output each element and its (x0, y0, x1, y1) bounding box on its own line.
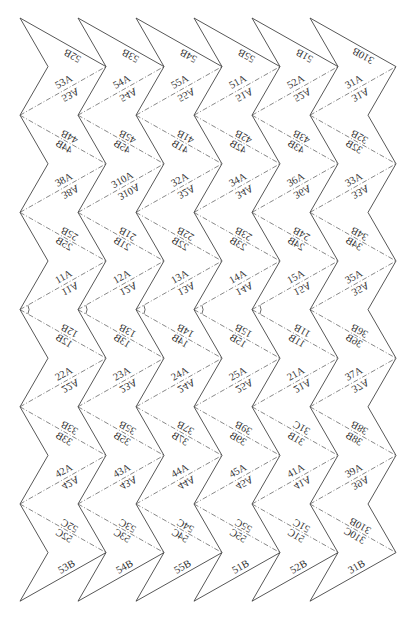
cut-line (78, 504, 106, 553)
cut-line (78, 455, 106, 504)
cut-line (368, 164, 396, 213)
cut-line (20, 310, 48, 359)
cut-line (368, 358, 396, 407)
cut-line (368, 455, 396, 504)
cut-line (252, 261, 280, 310)
cut-line (194, 67, 222, 116)
angle-arc-icon (144, 305, 145, 314)
cut-line (194, 407, 222, 456)
cut-line (20, 553, 106, 602)
cut-line (310, 553, 338, 602)
cut-line (20, 115, 48, 164)
cut-line (78, 358, 106, 407)
cut-line (310, 553, 396, 602)
cut-line (310, 504, 338, 553)
angle-arc-icon (86, 305, 87, 314)
cut-line (368, 212, 396, 261)
cut-line (194, 553, 222, 602)
cut-line (20, 455, 48, 504)
cut-line (78, 407, 106, 456)
cut-line (252, 18, 338, 67)
cut-line (78, 212, 106, 261)
cut-line (136, 553, 164, 602)
cut-line (78, 18, 164, 67)
cut-line (20, 67, 48, 116)
cut-line (252, 455, 280, 504)
angle-arc-icon (260, 305, 261, 314)
cut-line (136, 18, 164, 67)
cut-line (78, 553, 106, 602)
cut-line (194, 18, 222, 67)
zigzag-net-diagram: 53A53A44B44B38A38A25B25B11A11A12B12B22A2… (0, 0, 415, 619)
cut-line (136, 553, 222, 602)
cut-line (136, 310, 164, 359)
cut-line (194, 358, 222, 407)
cut-line (252, 67, 280, 116)
cut-line (78, 164, 106, 213)
angle-arc-icon (28, 305, 29, 314)
cut-line (78, 115, 106, 164)
cut-line (252, 310, 280, 359)
cut-line (252, 407, 280, 456)
cut-line (368, 310, 396, 359)
cut-line (20, 212, 48, 261)
cut-line (310, 310, 338, 359)
cut-line (136, 115, 164, 164)
cut-line (136, 504, 164, 553)
cut-line (194, 455, 222, 504)
cut-line (78, 18, 106, 67)
cut-line (368, 261, 396, 310)
cut-line (136, 261, 164, 310)
cut-line (252, 504, 280, 553)
cut-line (136, 358, 164, 407)
cut-line (368, 115, 396, 164)
cut-line (136, 212, 164, 261)
cut-line (252, 212, 280, 261)
cut-line (20, 358, 48, 407)
cut-line (252, 553, 338, 602)
cut-line (252, 164, 280, 213)
cut-line (20, 164, 48, 213)
cut-line (136, 407, 164, 456)
cut-line (78, 310, 106, 359)
cut-line (78, 553, 164, 602)
cut-line (310, 455, 338, 504)
angle-arc-icon (202, 305, 203, 314)
cut-line (20, 18, 48, 67)
cut-line (194, 18, 280, 67)
cut-line (252, 553, 280, 602)
cut-line (310, 407, 338, 456)
cut-line (20, 504, 48, 553)
cut-line (310, 18, 338, 67)
cut-line (194, 504, 222, 553)
cut-line (20, 18, 106, 67)
cut-line (310, 261, 338, 310)
cut-line (310, 67, 338, 116)
cut-line (194, 164, 222, 213)
cut-line (310, 115, 338, 164)
cut-line (20, 261, 48, 310)
cut-line (368, 504, 396, 553)
cut-line (252, 358, 280, 407)
cut-line (194, 310, 222, 359)
cut-line (136, 455, 164, 504)
cut-line (20, 407, 48, 456)
cut-line (136, 67, 164, 116)
cut-line (310, 18, 396, 67)
cut-line (194, 261, 222, 310)
cut-line (368, 407, 396, 456)
cut-line (310, 358, 338, 407)
cut-line (310, 164, 338, 213)
cut-line (252, 18, 280, 67)
cut-line (78, 261, 106, 310)
cut-line (20, 553, 48, 602)
cut-line (194, 115, 222, 164)
cut-line (368, 67, 396, 116)
cut-line (310, 212, 338, 261)
cut-line (194, 212, 222, 261)
cut-line (136, 18, 222, 67)
cut-line (194, 553, 280, 602)
cut-line (78, 67, 106, 116)
cut-line (252, 115, 280, 164)
